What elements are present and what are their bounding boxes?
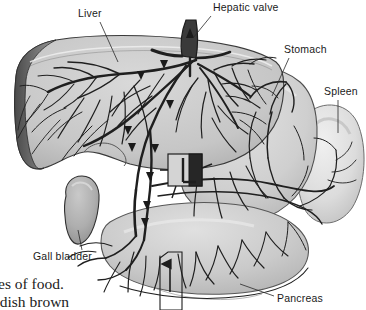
label-gall-bladder: Gall bladder — [33, 251, 92, 262]
organ-pancreas — [101, 203, 308, 300]
label-hepatic-valve: Hepatic valve — [213, 2, 279, 13]
anatomy-figure: Liver Hepatic valve Stomach Spleen Gall … — [0, 0, 366, 310]
portal-arrow-5 — [146, 172, 154, 181]
page-body-text: ses of food. ddish brown — [0, 276, 69, 310]
body-text-line-2: ddish brown — [0, 294, 69, 310]
organ-gall-bladder — [65, 176, 100, 244]
label-pancreas: Pancreas — [277, 293, 323, 304]
label-stomach: Stomach — [284, 44, 327, 55]
label-liver: Liver — [78, 8, 102, 19]
body-text-line-1: ses of food. — [0, 276, 69, 292]
label-spleen: Spleen — [324, 86, 358, 97]
